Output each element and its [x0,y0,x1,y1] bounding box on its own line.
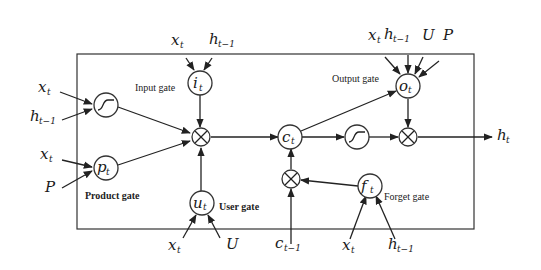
product-gate-label: Product gate [85,190,140,201]
svg-text:t: t [370,185,374,195]
multiply-node-output [399,128,417,146]
var-c-tminus1: c t−1 [275,234,301,253]
cell-state-node: c t [278,125,302,149]
svg-text:t: t [177,245,181,255]
forget-gate-label: Forget gate [384,191,430,202]
svg-text:P: P [442,26,454,44]
svg-text:t: t [506,135,510,145]
svg-text:t: t [199,83,203,93]
svg-text:t: t [203,202,207,212]
tanh-node-input [94,93,118,117]
svg-text:c: c [275,234,284,252]
svg-text:P: P [44,178,56,196]
input-gate-node: i t [188,71,212,95]
var-x-t-tanh: x t [38,78,51,97]
user-gate-label: User gate [219,201,260,212]
output-gate-node: o t [396,74,420,98]
svg-text:t: t [47,87,51,97]
svg-text:U: U [226,235,240,253]
svg-text:t−1: t−1 [397,244,414,254]
var-h-tminus1-tanh: h t−1 [30,107,56,126]
input-gate-label: Input gate [135,82,176,93]
svg-text:x: x [368,26,377,44]
var-h-tminus1-output: h t−1 [384,25,410,44]
svg-text:t: t [351,245,355,255]
multiply-node-forget [282,170,300,188]
svg-text:i: i [193,74,198,92]
var-P-product: P [44,178,56,196]
svg-text:t−1: t−1 [284,243,301,253]
svg-text:x: x [342,236,351,254]
var-h-tminus1-input: h t−1 [209,30,235,49]
svg-text:t: t [377,35,381,45]
svg-text:t−1: t−1 [218,39,235,49]
var-x-t-input: x t [171,31,184,50]
svg-text:o: o [399,77,408,95]
var-P-output: P [442,26,454,44]
svg-text:x: x [38,78,47,96]
svg-text:x: x [168,236,177,254]
svg-text:t: t [49,154,53,164]
var-x-t-user: x t [168,236,181,255]
tanh-node-output [345,125,369,149]
svg-text:x: x [171,31,180,49]
product-gate-node: p t [94,156,118,180]
forget-gate-node: f t [358,174,382,198]
svg-text:u: u [193,194,203,212]
lstm-diagram: i t Input gate p t Product gate u t User… [0,0,541,270]
svg-text:t: t [291,136,295,146]
svg-text:U: U [422,26,436,44]
var-x-t-product: x t [40,145,53,164]
svg-text:t−1: t−1 [393,34,410,44]
user-gate-node: u t [190,191,214,215]
var-x-t-forget: x t [342,236,355,255]
svg-text:t: t [106,167,110,177]
var-h-t-output: h t [497,126,510,145]
var-h-tminus1-forget: h t−1 [388,235,414,254]
var-U-output: U [422,26,436,44]
output-gate-label: Output gate [332,73,379,84]
svg-text:c: c [282,128,291,146]
svg-text:t−1: t−1 [39,116,56,126]
svg-text:x: x [40,145,49,163]
var-U-user: U [226,235,240,253]
multiply-node-input [192,128,210,146]
var-x-t-output: x t [368,26,381,45]
svg-text:t: t [408,85,412,95]
svg-text:t: t [180,40,184,50]
